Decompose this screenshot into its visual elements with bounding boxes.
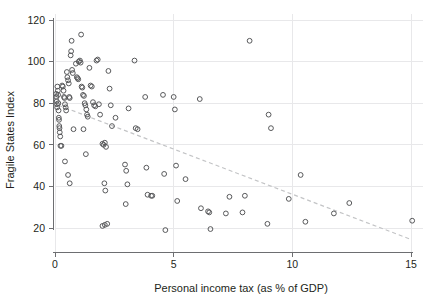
data-point [126, 106, 131, 111]
data-point [331, 211, 336, 216]
y-tick-label: 100 [27, 55, 45, 67]
x-axis-title: Personal income tax (as % of GDP) [154, 282, 328, 294]
data-point [265, 221, 270, 226]
data-point [227, 194, 232, 199]
scatter-chart: 20406080100120051015 Personal income tax… [0, 0, 429, 304]
data-point [175, 199, 180, 204]
data-point [81, 127, 86, 132]
data-point [347, 201, 352, 206]
data-point [64, 70, 69, 75]
x-tick-label: 5 [171, 258, 177, 270]
data-point [102, 181, 107, 186]
x-tick-label: 15 [405, 258, 417, 270]
data-point [66, 81, 71, 86]
data-point [162, 172, 167, 177]
data-point [63, 159, 68, 164]
data-point [161, 92, 166, 97]
data-point [98, 112, 103, 117]
x-tick-label: 0 [52, 258, 58, 270]
y-axis-title: Fragile States Index [4, 91, 16, 189]
data-point [70, 71, 75, 76]
trend-line [59, 105, 411, 239]
data-point [242, 193, 247, 198]
data-point [89, 84, 94, 89]
data-point [124, 168, 129, 173]
data-point [103, 188, 108, 193]
data-point [87, 65, 92, 70]
data-point [69, 38, 74, 43]
x-tick-label: 10 [286, 258, 298, 270]
data-point [247, 38, 252, 43]
data-point [113, 115, 118, 120]
y-tick-label: 120 [27, 14, 45, 26]
data-point [66, 173, 71, 178]
y-tick-label: 20 [33, 222, 45, 234]
axes [49, 18, 413, 257]
chart-canvas: 20406080100120051015 Personal income tax… [0, 0, 429, 304]
data-point [208, 227, 213, 232]
y-tick-label: 80 [33, 97, 45, 109]
data-point [106, 69, 111, 74]
data-point [83, 152, 88, 157]
data-point [298, 173, 303, 178]
data-point [199, 206, 204, 211]
gridlines [55, 14, 423, 252]
y-tick-label: 60 [33, 139, 45, 151]
data-point [71, 127, 76, 132]
data-point [144, 165, 149, 170]
data-points [54, 32, 415, 232]
y-tick-label: 40 [33, 180, 45, 192]
data-point [174, 163, 179, 168]
data-point [286, 196, 291, 201]
data-point [223, 211, 228, 216]
data-point [143, 95, 148, 100]
data-point [79, 32, 84, 37]
data-point [107, 86, 112, 91]
data-point [123, 202, 128, 207]
data-point [303, 219, 308, 224]
data-point [207, 210, 212, 215]
trendline [59, 105, 411, 239]
data-point [67, 181, 72, 186]
tick-labels: 20406080100120051015 [27, 14, 417, 270]
data-point [266, 112, 271, 117]
data-point [183, 177, 188, 182]
data-point [240, 210, 245, 215]
data-point [123, 162, 128, 167]
data-point [269, 126, 274, 131]
data-point [197, 97, 202, 102]
data-point [132, 58, 137, 63]
